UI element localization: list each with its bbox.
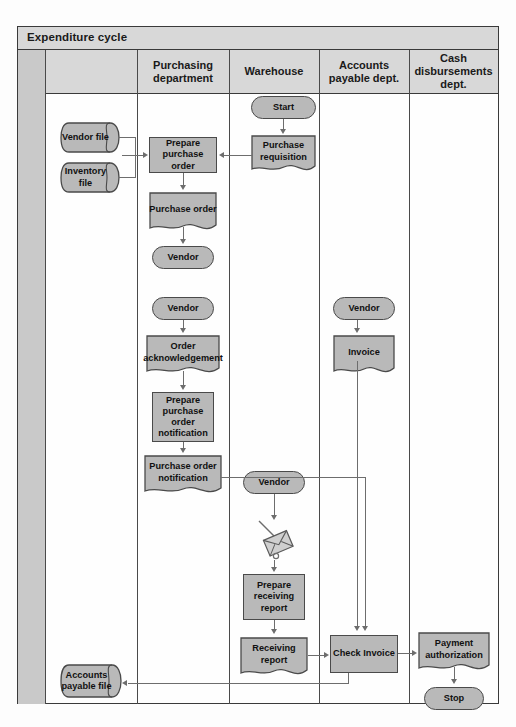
arrowhead [219,152,224,158]
envelope-icon [256,517,300,565]
connector-po-to-vendor1 [183,227,184,239]
node-vendor-3-label: Vendor [348,303,379,314]
node-vendor-1-label: Vendor [167,252,198,263]
connector-requisition-to-prepare-po [224,155,252,156]
diagram-title-bar: Expenditure cycle [18,27,498,50]
connector-files-bus [135,137,136,178]
arrowhead [180,385,186,390]
connector-files-to-prepare-po [122,155,144,156]
lane-separator-4 [319,50,320,704]
column-header-cash-disbursements: Cash disbursements dept. [409,50,498,93]
node-purchase-requisition[interactable]: Purchase requisition [251,135,316,175]
node-vendor-2[interactable]: Vendor [152,297,214,320]
node-check-invoice-label: Check Invoice [333,648,395,659]
arrowhead [143,152,148,158]
arrowhead [451,679,457,684]
arrowhead [354,626,360,631]
node-vendor-file-label: Vendor file [62,132,118,143]
connector-receiving-report-to-check-invoice [308,655,325,656]
node-receiving-report-label: Receiving report [240,643,308,672]
lane-separator-3 [229,50,230,704]
node-check-invoice[interactable]: Check Invoice [330,635,398,673]
arrowhead [271,629,277,634]
node-inventory-file-label: Inventory file [60,166,120,188]
node-vendor-3[interactable]: Vendor [333,297,395,320]
node-receiving-report[interactable]: Receiving report [240,637,308,679]
connector-check-invoice-to-ap-file [128,683,349,684]
node-vendor-4-label: Vendor [258,477,289,488]
node-prepare-po-notification-label: Prepare purchase order notification [153,395,213,439]
arrowhead [180,239,186,244]
lane-separator-2 [137,50,138,704]
arrowhead [362,626,368,631]
node-invoice[interactable]: Invoice [333,335,395,377]
node-purchase-requisition-label: Purchase requisition [251,140,316,169]
node-purchase-order-notification-label: Purchase order notification [144,461,222,490]
column-header-purchasing: Purchasing department [137,50,229,93]
arrowhead [180,185,186,190]
node-stop[interactable]: Stop [424,687,484,710]
arrowhead [271,567,277,572]
column-header-unnamed [45,50,137,93]
diagram-frame: Expenditure cycle Purchasing department … [17,26,499,704]
node-accounts-payable-file-label: Accounts payable file [60,670,122,692]
connector-vendor-file-out [119,137,135,138]
node-invoice-label: Invoice [348,347,380,365]
node-prepare-purchase-order[interactable]: Prepare purchase order [149,137,217,173]
arrowhead [354,328,360,333]
node-prepare-receiving-report[interactable]: Prepare receiving report [243,574,305,620]
node-prepare-purchase-order-label: Prepare purchase order [150,138,216,171]
node-payment-authorization-label: Payment authorization [418,638,490,667]
connector-notification-to-ap-bus [221,477,365,478]
envelope-glyph [256,517,300,565]
arrowhead [280,129,286,134]
flowchart-page: Expenditure cycle Purchasing department … [0,0,516,727]
node-purchase-order-notification[interactable]: Purchase order notification [144,455,222,497]
arrowhead [271,515,277,520]
column-header-accounts-payable: Accounts payable dept. [319,50,409,93]
arrowhead [180,328,186,333]
node-vendor-file[interactable]: Vendor file [60,122,120,153]
connector-inventory-file-out [119,177,135,178]
page-title: Expenditure cycle [27,31,127,43]
node-start-label: Start [273,102,294,113]
arrowhead [324,652,329,658]
node-vendor-2-label: Vendor [167,303,198,314]
arrowhead [180,448,186,453]
connector-check-invoice-down [348,673,349,683]
node-accounts-payable-file[interactable]: Accounts payable file [60,664,122,698]
node-order-acknowledgement-label: Order acknowledgement [143,341,223,370]
connector-ack-to-prepare-notification [183,371,184,386]
node-prepare-po-notification[interactable]: Prepare purchase order notification [152,392,214,442]
lane-separator-1 [45,50,46,704]
lane-separator-5 [409,50,410,704]
left-gray-band [18,50,45,704]
node-prepare-receiving-report-label: Prepare receiving report [244,580,304,613]
node-purchase-order-label: Purchase order [149,204,216,222]
node-inventory-file[interactable]: Inventory file [60,162,120,193]
connector-vendor4-to-envelope [274,494,275,517]
node-start[interactable]: Start [251,96,316,119]
arrowhead [122,680,127,686]
swimlane-header-row: Purchasing department Warehouse Accounts… [18,50,498,94]
connector-check-invoice-to-payment-auth [398,653,413,654]
node-stop-label: Stop [444,693,464,704]
column-header-warehouse: Warehouse [229,50,319,93]
arrowhead [412,650,417,656]
node-vendor-4[interactable]: Vendor [243,471,305,494]
connector-invoice-to-check-invoice [357,361,358,627]
node-vendor-1[interactable]: Vendor [152,246,214,269]
connector-ap-bus-vertical [365,477,366,627]
